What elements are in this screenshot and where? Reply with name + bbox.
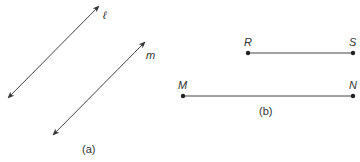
point-m [181,94,185,98]
line-l [8,6,99,98]
caption-b: (b) [259,105,272,117]
point-r [246,51,250,55]
figure-a: ℓ m (a) [8,6,155,155]
line-m-label: m [146,49,155,61]
point-s-label: S [349,36,357,48]
point-r-label: R [244,36,252,48]
point-n-label: N [349,79,357,91]
point-s [351,51,355,55]
point-m-label: M [178,79,188,91]
point-n [351,94,355,98]
line-l-label: ℓ [102,9,107,21]
diagram-canvas: ℓ m (a) R S M N (b) [0,0,360,162]
figure-b: R S M N (b) [178,36,357,117]
caption-a: (a) [82,143,95,155]
line-m [53,42,145,135]
